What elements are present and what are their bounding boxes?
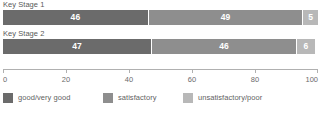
bar-segment: 49 [148, 10, 302, 25]
axis-tick-label: 0 [3, 75, 7, 84]
bar-segment-value: 49 [221, 13, 231, 22]
bar-segment: 6 [296, 39, 315, 54]
axis-tick [129, 69, 130, 73]
legend-item[interactable]: satisfactory [103, 91, 157, 105]
legend-label: good/very good [18, 93, 70, 103]
bar-group: Key Stage 247466 [0, 29, 323, 38]
x-axis: 020406080100 [3, 69, 318, 87]
stacked-bar: 47466 [3, 39, 318, 54]
category-label: Key Stage 1 [0, 0, 323, 9]
bar-segment-value: 46 [71, 13, 81, 22]
stacked-bar: 46495 [3, 10, 318, 25]
legend-swatch-icon [3, 93, 13, 103]
bar-segment-value: 47 [72, 42, 82, 51]
axis-tick [255, 69, 256, 73]
legend-label: satisfactory [118, 93, 157, 103]
bar-segment-value: 46 [219, 42, 229, 51]
bar-segment: 46 [151, 39, 296, 54]
chart-legend: good/very goodsatisfactoryunsatisfactory… [3, 91, 321, 105]
axis-tick-label: 60 [188, 75, 196, 84]
axis-tick [66, 69, 67, 73]
bar-group: Key Stage 146495 [0, 0, 323, 9]
axis-tick [192, 69, 193, 73]
bar-segment-value: 5 [308, 13, 313, 22]
axis-tick-label: 40 [125, 75, 133, 84]
axis-tick-label: 80 [251, 75, 259, 84]
category-label: Key Stage 2 [0, 29, 323, 38]
legend-label: unsatisfactory/poor [198, 93, 262, 103]
footnote-sliver [3, 115, 321, 123]
legend-item[interactable]: unsatisfactory/poor [183, 91, 262, 105]
stacked-bar-chart: Key Stage 146495Key Stage 247466 0204060… [0, 0, 323, 123]
x-axis-line [3, 69, 318, 70]
legend-item[interactable]: good/very good [3, 91, 70, 105]
bar-segment: 47 [3, 39, 151, 54]
axis-tick-label: 100 [305, 75, 318, 84]
axis-tick [3, 69, 4, 73]
legend-swatch-icon [103, 93, 113, 103]
bar-segment-value: 6 [303, 42, 308, 51]
legend-swatch-icon [183, 93, 193, 103]
axis-tick-label: 20 [62, 75, 70, 84]
bar-segment: 46 [3, 10, 148, 25]
bar-segment: 5 [302, 10, 318, 25]
axis-tick [317, 69, 318, 73]
